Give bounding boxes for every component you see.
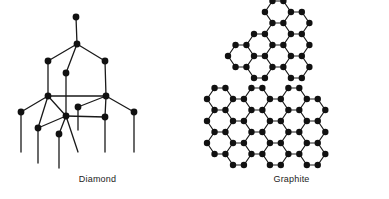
carbon-atom	[280, 42, 286, 48]
carbon-atom	[74, 41, 81, 48]
carbon-atom	[315, 140, 321, 146]
carbon-atom	[262, 9, 268, 15]
carbon-atom	[288, 9, 294, 15]
carbon-atom	[288, 31, 294, 37]
carbon-atom	[230, 118, 236, 124]
carbon-atom	[225, 53, 231, 59]
carbon-atom	[75, 104, 82, 111]
carbon-atom	[211, 85, 217, 91]
carbon-atom	[230, 96, 236, 102]
carbon-atom	[322, 107, 328, 113]
carbon-atom	[299, 75, 305, 81]
carbon-atom	[222, 85, 228, 91]
carbon-atom	[315, 118, 321, 124]
carbon-atom	[248, 129, 254, 135]
carbon-atom	[248, 85, 254, 91]
carbon-atom	[211, 107, 217, 113]
diamond-caption: Diamond	[0, 174, 195, 184]
carbon-atom	[267, 96, 273, 102]
bond-line	[66, 116, 105, 117]
carbon-atom	[222, 107, 228, 113]
carbon-atom	[241, 118, 247, 124]
carbon-atom	[63, 113, 70, 120]
carbon-atom	[285, 151, 291, 157]
carbon-atom	[73, 14, 80, 21]
carbon-atom	[204, 118, 210, 124]
carbon-atom	[280, 20, 286, 26]
carbon-atom	[278, 140, 284, 146]
carbon-atom	[45, 58, 52, 65]
carbon-atom	[288, 53, 294, 59]
carbon-atom	[232, 42, 238, 48]
carbon-atom	[230, 140, 236, 146]
carbon-atom	[322, 129, 328, 135]
carbon-atom	[288, 75, 294, 81]
carbon-atom	[269, 64, 275, 70]
carbon-atom	[299, 9, 305, 15]
carbon-atom	[35, 125, 42, 132]
carbon-atom	[285, 85, 291, 91]
graphite-atom-group	[204, 0, 329, 168]
carbon-atom	[241, 162, 247, 168]
diamond-panel: Diamond	[0, 0, 195, 199]
carbon-atom	[267, 162, 273, 168]
carbon-atom	[204, 140, 210, 146]
graphite-structure-diagram	[194, 0, 389, 199]
carbon-atom	[248, 107, 254, 113]
carbon-atom	[280, 64, 286, 70]
carbon-atom	[306, 20, 312, 26]
carbon-atom	[315, 162, 321, 168]
carbon-atom	[322, 151, 328, 157]
carbon-atom	[267, 118, 273, 124]
carbon-atom	[259, 129, 265, 135]
carbon-atom	[296, 129, 302, 135]
carbon-atom	[278, 162, 284, 168]
diamond-structure-diagram	[0, 0, 195, 199]
diamond-bond-group	[21, 17, 134, 168]
carbon-atom	[248, 151, 254, 157]
graphite-panel: Graphite	[194, 0, 389, 199]
carbon-atom	[204, 96, 210, 102]
carbon-atom	[285, 107, 291, 113]
carbon-atom	[278, 118, 284, 124]
carbon-atom	[304, 140, 310, 146]
carbon-atom	[269, 42, 275, 48]
carbon-atom	[296, 107, 302, 113]
carbon-atom	[296, 85, 302, 91]
carbon-atom	[241, 96, 247, 102]
carbon-atom	[299, 53, 305, 59]
figure-root: Diamond Graphite	[0, 0, 389, 199]
carbon-atom	[222, 151, 228, 157]
bond-line	[48, 44, 77, 61]
carbon-atom	[102, 58, 109, 65]
carbon-atom	[259, 151, 265, 157]
carbon-atom	[296, 151, 302, 157]
carbon-atom	[102, 114, 109, 121]
carbon-atom	[232, 64, 238, 70]
bond-line	[77, 44, 105, 61]
bond-line	[66, 44, 77, 73]
carbon-atom	[267, 140, 273, 146]
bond-line	[106, 96, 134, 112]
carbon-atom	[259, 85, 265, 91]
carbon-atom	[299, 31, 305, 37]
carbon-atom	[304, 96, 310, 102]
carbon-atom	[269, 20, 275, 26]
carbon-atom	[63, 70, 70, 77]
bond-line	[78, 96, 106, 107]
carbon-atom	[262, 31, 268, 37]
graphite-caption: Graphite	[194, 174, 389, 184]
carbon-atom	[262, 75, 268, 81]
carbon-atom	[285, 129, 291, 135]
carbon-atom	[262, 53, 268, 59]
carbon-atom	[211, 129, 217, 135]
carbon-atom	[18, 109, 25, 116]
carbon-atom	[251, 53, 257, 59]
carbon-atom	[306, 42, 312, 48]
carbon-atom	[259, 107, 265, 113]
carbon-atom	[230, 162, 236, 168]
carbon-atom	[241, 140, 247, 146]
bond-line	[76, 17, 77, 44]
carbon-atom	[222, 129, 228, 135]
carbon-atom	[243, 42, 249, 48]
